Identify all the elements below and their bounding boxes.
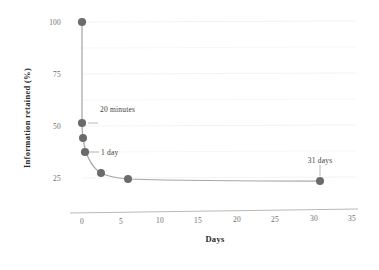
- data-point-3: [81, 148, 89, 156]
- annotation-20-minutes: 20 minutes: [100, 105, 135, 114]
- y-tick-label-25: 25: [53, 174, 61, 183]
- y-tick-label-100: 100: [49, 18, 61, 27]
- x-tick-label-10: 10: [156, 216, 164, 225]
- annotation-31-days: 31 days: [308, 156, 333, 165]
- annotation-1-day: 1 day: [101, 148, 119, 157]
- x-tick-label-20: 20: [233, 215, 241, 224]
- x-tick-label-25: 25: [271, 215, 279, 224]
- data-point-5: [124, 175, 132, 183]
- y-tick-label-75: 75: [53, 70, 61, 79]
- x-tick-label-0: 0: [80, 217, 84, 226]
- chart-figure: 100 75 50 25 0 5 10 15 20 25 30 35 Days …: [0, 0, 379, 270]
- data-point-1: [78, 119, 86, 127]
- x-tick-label-30: 30: [310, 214, 318, 223]
- chart-background: [0, 0, 379, 270]
- data-point-0: [78, 18, 86, 26]
- y-tick-label-50: 50: [53, 122, 61, 131]
- data-point-6: [316, 177, 324, 185]
- x-tick-label-15: 15: [194, 216, 202, 225]
- data-point-4: [97, 169, 105, 177]
- forgetting-curve-chart: 100 75 50 25 0 5 10 15 20 25 30 35 Days …: [0, 0, 379, 270]
- y-axis-title: Information retained (%): [22, 68, 32, 168]
- x-tick-label-5: 5: [119, 217, 123, 226]
- x-axis-title: Days: [205, 234, 225, 244]
- x-tick-label-35: 35: [348, 214, 356, 223]
- data-point-2: [79, 134, 87, 142]
